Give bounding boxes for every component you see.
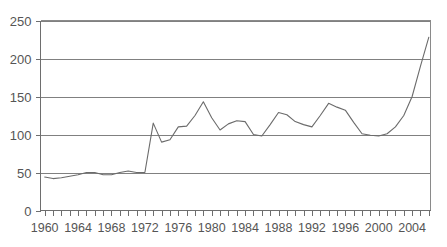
x-tick-label-1976: 1976 [164,221,192,235]
x-tick-label-1992: 1992 [298,221,326,235]
line-chart: 050100150200250 196019641968197219761980… [0,0,447,247]
x-tick-label-1960: 1960 [31,221,59,235]
x-tick-label-1996: 1996 [331,221,359,235]
x-tick-label-1972: 1972 [131,221,159,235]
y-tick-label-0: 0 [24,204,31,219]
x-tick-label-1980: 1980 [198,221,226,235]
y-tick-label-50: 50 [17,166,31,181]
plot-frame [41,21,431,211]
x-tick-label-2000: 2000 [365,221,393,235]
x-axis-tick-marks [46,211,430,216]
data-series [45,37,429,178]
y-tick-label-100: 100 [10,128,32,143]
x-axis-tick-labels: 1960196419681972197619801984198819921996… [31,221,426,235]
gridlines [41,22,431,174]
x-tick-label-1988: 1988 [265,221,293,235]
x-tick-label-1984: 1984 [231,221,259,235]
y-axis-tick-labels: 050100150200250 [10,14,41,219]
series-line-series-1 [45,37,429,178]
chart-canvas: 050100150200250 196019641968197219761980… [0,0,447,247]
x-tick-label-2004: 2004 [398,221,426,235]
y-tick-label-250: 250 [10,14,32,29]
y-tick-label-200: 200 [10,52,32,67]
x-tick-label-1964: 1964 [64,221,92,235]
x-tick-label-1968: 1968 [98,221,126,235]
y-tick-label-150: 150 [10,90,32,105]
